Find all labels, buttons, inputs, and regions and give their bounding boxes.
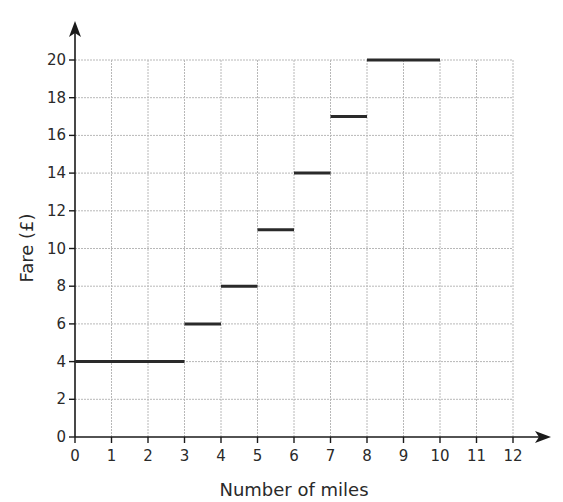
y-axis-title: Fare (£) <box>16 213 37 282</box>
y-tick-label: 12 <box>47 202 66 220</box>
x-tick-label: 0 <box>70 447 80 465</box>
y-tick-label: 6 <box>56 315 66 333</box>
y-tick-label: 8 <box>56 277 66 295</box>
y-tick-label: 2 <box>56 390 66 408</box>
x-tick-label: 3 <box>180 447 190 465</box>
x-tick-label: 12 <box>503 447 522 465</box>
x-tick-label: 5 <box>253 447 263 465</box>
tick-labels: 012345678910111202468101214161820 <box>47 51 523 465</box>
x-tick-label: 11 <box>467 447 486 465</box>
x-tick-label: 2 <box>143 447 153 465</box>
x-tick-label: 8 <box>362 447 372 465</box>
axes <box>69 21 551 443</box>
x-tick-label: 10 <box>430 447 449 465</box>
y-tick-label: 0 <box>56 428 66 446</box>
y-tick-label: 14 <box>47 164 66 182</box>
y-tick-label: 4 <box>56 353 66 371</box>
x-tick-label: 4 <box>216 447 226 465</box>
y-tick-label: 20 <box>47 51 66 69</box>
step-chart-svg: 012345678910111202468101214161820 Number… <box>0 0 563 502</box>
y-tick-label: 16 <box>47 126 66 144</box>
y-tick-label: 18 <box>47 89 66 107</box>
x-tick-label: 7 <box>326 447 336 465</box>
x-axis-title: Number of miles <box>219 479 368 500</box>
x-tick-label: 6 <box>289 447 299 465</box>
grid-lines <box>75 60 513 437</box>
y-tick-label: 10 <box>47 240 66 258</box>
x-tick-label: 1 <box>107 447 117 465</box>
chart: 012345678910111202468101214161820 Number… <box>0 0 563 502</box>
x-tick-label: 9 <box>399 447 409 465</box>
